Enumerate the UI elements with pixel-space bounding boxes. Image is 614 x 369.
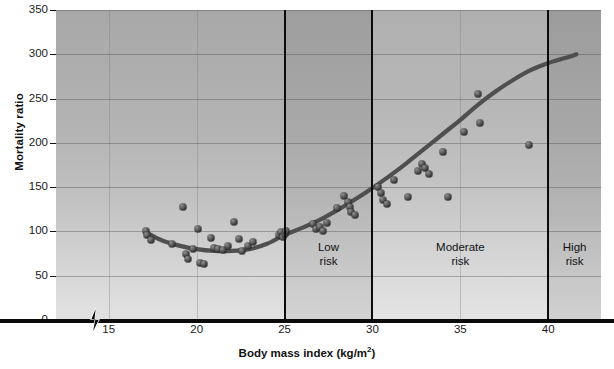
y-tick-label-50: 50 [35, 270, 48, 282]
y-axis-ticks: 050100150200250300350 [0, 0, 56, 330]
zone-label-moderate-line2: risk [436, 255, 485, 269]
data-point [195, 225, 202, 232]
data-point [334, 205, 341, 212]
data-point [351, 212, 358, 219]
data-point [169, 240, 176, 247]
data-point [235, 236, 242, 243]
zone-label-high-line2: risk [563, 255, 587, 269]
y-tick-label-350: 350 [29, 4, 48, 16]
data-point [179, 203, 186, 210]
data-point [390, 177, 397, 184]
data-point [415, 168, 422, 175]
y-tick-mark-100 [50, 231, 56, 232]
divider-bmi-40 [547, 10, 549, 320]
y-tick-mark-150 [50, 187, 56, 188]
y-tick-label-300: 300 [29, 49, 48, 61]
divider-bmi-30 [371, 10, 373, 320]
y-tick-mark-200 [50, 143, 56, 144]
chart-figure: LowriskModerateriskHighrisk 050100150200… [0, 0, 614, 369]
data-point [320, 227, 327, 234]
data-point [445, 193, 452, 200]
zone-label-high-line1: High [563, 241, 587, 255]
y-tick-mark-50 [50, 276, 56, 277]
x-tick-label-35: 35 [454, 323, 467, 335]
zone-label-low-line2: risk [318, 255, 339, 269]
y-tick-label-250: 250 [29, 93, 48, 105]
y-tick-mark-350 [50, 10, 56, 11]
data-point [404, 193, 411, 200]
data-point [249, 239, 256, 246]
data-point [184, 255, 191, 262]
y-axis-label: Mortality ratio [13, 77, 25, 187]
zone-label-high: Highrisk [563, 241, 587, 268]
data-point [383, 200, 390, 207]
x-tick-label-20: 20 [190, 323, 203, 335]
data-point [525, 141, 532, 148]
data-point [474, 91, 481, 98]
y-tick-label-200: 200 [29, 137, 48, 149]
data-point [190, 246, 197, 253]
zone-label-moderate-line1: Moderate [436, 241, 485, 255]
data-point [200, 261, 207, 268]
y-tick-label-150: 150 [29, 181, 48, 193]
data-point [439, 148, 446, 155]
data-point [230, 218, 237, 225]
x-axis-label: Body mass index (kg/m2) [0, 345, 614, 359]
data-point [147, 237, 154, 244]
divider-bmi-25 [284, 10, 286, 320]
y-tick-mark-250 [50, 99, 56, 100]
data-point [460, 129, 467, 136]
x-tick-label-30: 30 [366, 323, 379, 335]
fitted-curve [56, 10, 601, 320]
zone-label-low-line1: Low [318, 241, 339, 255]
y-tick-mark-300 [50, 54, 56, 55]
data-point [225, 243, 232, 250]
x-axis-label-tail: ) [372, 347, 376, 359]
zone-label-low: Lowrisk [318, 241, 339, 268]
data-point [425, 170, 432, 177]
plot-area: LowriskModerateriskHighrisk [56, 10, 601, 320]
y-tick-label-100: 100 [29, 226, 48, 238]
data-point [207, 234, 214, 241]
x-tick-label-25: 25 [278, 323, 291, 335]
zone-label-moderate: Moderaterisk [436, 241, 485, 268]
fitted-curve-path [147, 54, 576, 251]
x-tick-label-40: 40 [542, 323, 555, 335]
x-axis-label-base: Body mass index (kg/m [239, 347, 367, 359]
axis-break-icon [84, 307, 106, 333]
data-point [476, 120, 483, 127]
data-point [323, 219, 330, 226]
